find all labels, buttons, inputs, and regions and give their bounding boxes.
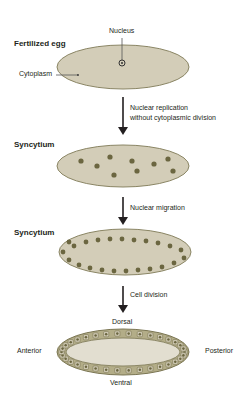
syncytium-scattered bbox=[57, 145, 189, 187]
step-nuclear-migration: Nuclear migration bbox=[130, 203, 185, 213]
arrow-down-icon bbox=[118, 127, 128, 135]
arrow-down-icon bbox=[118, 305, 128, 313]
fertilized-egg bbox=[57, 45, 189, 89]
axis-label-ventral: Ventral bbox=[110, 379, 132, 386]
stage-title-syncytium-1: Syncytium bbox=[14, 140, 54, 149]
stage-title-fertilized-egg: Fertilized egg bbox=[14, 39, 66, 48]
axis-label-posterior: Posterior bbox=[205, 347, 233, 354]
step-cell-division: Cell division bbox=[130, 290, 167, 300]
axis-label-anterior: Anterior bbox=[17, 347, 42, 354]
syncytium-peripheral bbox=[59, 229, 191, 275]
step-nuclear-replication: Nuclear replication without cytoplasmic … bbox=[130, 103, 216, 122]
arrow-down-icon bbox=[118, 217, 128, 225]
stage-title-syncytium-2: Syncytium bbox=[14, 228, 54, 237]
axis-label-dorsal: Dorsal bbox=[112, 318, 132, 325]
diagram-canvas bbox=[0, 0, 246, 400]
label-nucleus: Nucleus bbox=[109, 27, 134, 34]
label-cytoplasm: Cytoplasm bbox=[19, 70, 52, 77]
